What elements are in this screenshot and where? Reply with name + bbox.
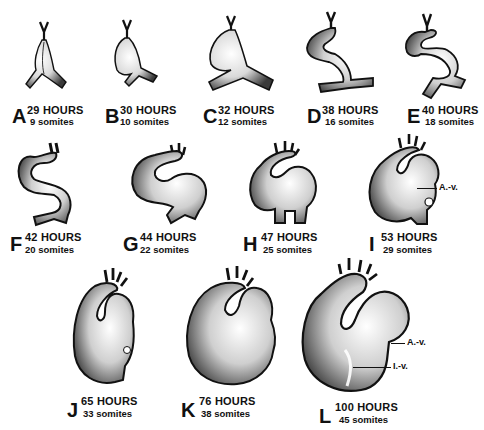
stage-hours: 38 HOURS (322, 105, 379, 116)
stage-letter: D (307, 106, 321, 126)
stage-hours: 32 HOURS (218, 105, 275, 116)
stage-h: H 47 HOURS 25 somites (235, 135, 350, 255)
stage-i: A.-v. I 53 HOURS 29 somites (355, 130, 484, 255)
heart-k-drawing (175, 260, 295, 400)
stage-somites: 38 somites (201, 409, 250, 419)
heart-tube-e-drawing (395, 0, 484, 100)
heart-tube-d-drawing (295, 0, 390, 100)
stage-letter: J (67, 400, 78, 420)
stage-k: K 76 HOURS 38 somites (175, 260, 295, 430)
heart-f-drawing (0, 135, 110, 230)
stage-somites: 10 somites (120, 117, 169, 127)
heart-l-drawing (295, 250, 425, 395)
heart-j-drawing (55, 260, 165, 400)
av-leader-line (391, 343, 405, 344)
stage-somites: 33 somites (83, 409, 132, 419)
stage-hours: 44 HOURS (140, 232, 197, 243)
annotation-iv: I.-v. (393, 361, 408, 371)
stage-d: D 38 HOURS 16 somites (295, 0, 390, 130)
heart-tube-b-drawing (95, 0, 190, 100)
heart-h-drawing (235, 135, 350, 230)
stage-letter: C (203, 106, 217, 126)
stage-somites: 22 somites (140, 245, 189, 255)
stage-somites: 16 somites (325, 117, 374, 127)
stage-letter: F (10, 234, 22, 254)
stage-hours: 53 HOURS (381, 232, 438, 243)
stage-g: G 44 HOURS 22 somites (115, 135, 230, 255)
stage-l: A.-v. I.-v. L 100 HOURS 45 somites (295, 250, 484, 430)
stage-c: C 32 HOURS 12 somites (195, 0, 295, 130)
stage-hours: 42 HOURS (25, 232, 82, 243)
av-leader-line (417, 188, 437, 189)
stage-a: A 29 HOURS 9 somites (0, 0, 95, 130)
stage-letter: K (181, 400, 195, 420)
stage-somites: 45 somites (339, 415, 388, 425)
stage-f: F 42 HOURS 20 somites (0, 135, 110, 255)
iv-leader-line (353, 367, 391, 368)
stage-e: E 40 HOURS 18 somites (395, 0, 484, 130)
stage-hours: 47 HOURS (261, 232, 318, 243)
stage-hours: 30 HOURS (120, 105, 177, 116)
stage-hours: 65 HOURS (81, 396, 138, 407)
annotation-av: A.-v. (439, 182, 458, 192)
heart-g-drawing (115, 135, 230, 230)
stage-b: B 30 HOURS 10 somites (95, 0, 190, 130)
stage-hours: 76 HOURS (199, 396, 256, 407)
heart-i-drawing (355, 130, 484, 230)
stage-somites: 18 somites (425, 117, 474, 127)
stage-letter: G (123, 234, 139, 254)
stage-letter: L (319, 406, 331, 426)
stage-somites: 12 somites (218, 117, 267, 127)
stage-letter: H (243, 234, 257, 254)
heart-tube-a-drawing (0, 0, 95, 100)
stage-hours: 29 HOURS (27, 105, 84, 116)
annotation-av: A.-v. (407, 337, 426, 347)
stage-letter: E (407, 106, 420, 126)
stage-somites: 9 somites (30, 117, 74, 127)
stage-letter: A (12, 106, 26, 126)
stage-somites: 20 somites (25, 245, 74, 255)
stage-j: J 65 HOURS 33 somites (55, 260, 165, 430)
heart-tube-c-drawing (195, 0, 295, 100)
stage-letter: B (105, 106, 119, 126)
stage-hours: 40 HOURS (422, 105, 479, 116)
stage-hours: 100 HOURS (335, 402, 398, 413)
